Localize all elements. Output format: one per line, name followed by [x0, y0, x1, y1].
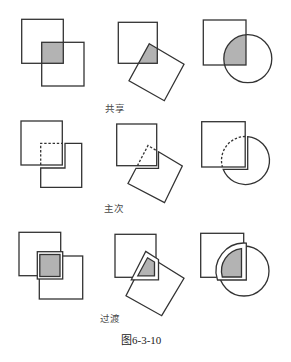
- hidden-edge-dashed: [137, 146, 156, 166]
- figure-caption: 图6-3-10: [121, 334, 162, 346]
- row-transition: 过渡: [19, 232, 269, 324]
- hidden-edge-dashed: [41, 143, 63, 165]
- row-label-primary-secondary: 主次: [104, 203, 124, 214]
- row-label-shared: 共享: [105, 103, 125, 114]
- row-label-transition: 过渡: [100, 313, 120, 324]
- panel-primary-square-circle: [202, 122, 270, 185]
- figure-canvas: 共享 主次: [0, 0, 291, 362]
- panel-shared-square-circle: [203, 20, 271, 83]
- hidden-arc-dashed: [222, 137, 246, 168]
- panel-transition-square-circle: [201, 233, 269, 296]
- overlap-region: [224, 35, 246, 65]
- square-front: [117, 124, 157, 166]
- panel-primary-square-rotated: [117, 124, 183, 203]
- square-front: [202, 122, 246, 167]
- panel-primary-two-squares: [21, 121, 82, 187]
- overlap-region: [42, 42, 64, 63]
- circle-back: [223, 137, 269, 185]
- row-shared: 共享: [22, 19, 272, 113]
- rotated-square-back: [128, 152, 182, 203]
- panel-shared-two-squares: [22, 19, 84, 86]
- panel-shared-square-rotated: [118, 22, 184, 100]
- overlap-region: [40, 255, 60, 277]
- panel-transition-square-rotated: [115, 234, 184, 315]
- row-primary-secondary: 主次: [21, 121, 269, 214]
- panel-transition-two-squares: [19, 232, 83, 299]
